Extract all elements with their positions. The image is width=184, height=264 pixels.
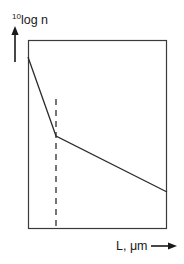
y-axis-label: 10log n [12,14,48,27]
data-curve [28,57,167,192]
y-axis-label-superscript: 10 [12,12,21,21]
figure-container: 10log n L, μm [0,0,184,264]
plot-canvas [0,0,184,264]
plot-frame [29,41,167,229]
x-axis-arrow [151,242,177,249]
y-axis-arrow [11,26,18,62]
x-axis-label: L, μm [116,240,148,253]
y-axis-label-text: log n [21,13,48,27]
